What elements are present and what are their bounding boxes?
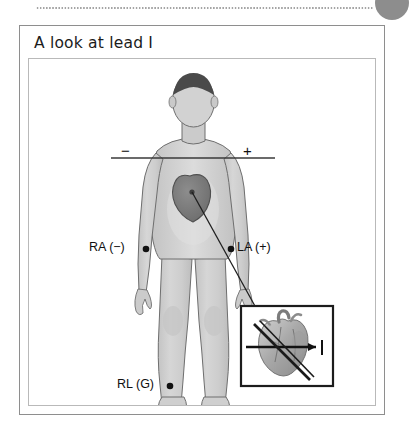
electrode-dot-rl: [167, 383, 174, 390]
figure-title: A look at lead I: [34, 34, 153, 52]
figure-container: A look at lead I: [19, 25, 385, 415]
electrode-label-rl: RL (G): [117, 377, 154, 391]
axis-positive-sign: +: [243, 143, 252, 158]
axis-negative-sign: −: [121, 143, 130, 158]
electrode-dot-la: [228, 246, 235, 253]
illustration-panel: − + RA (−) LA (+) RL (G): [28, 58, 376, 406]
page-root: A look at lead I: [0, 0, 415, 448]
dotted-divider: [36, 7, 373, 9]
electrode-label-ra: RA (−): [89, 240, 125, 254]
electrode-label-la: LA (+): [237, 240, 271, 254]
body-diagram-svg: [29, 59, 376, 406]
human-body-figure: [135, 73, 252, 406]
electrode-dot-ra: [143, 246, 150, 253]
page-bullet-circle: [375, 0, 409, 20]
heart-detail-inset: [241, 306, 333, 386]
